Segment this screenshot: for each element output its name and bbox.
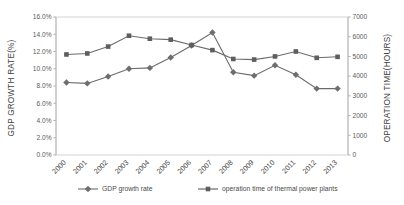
data-point-square (273, 54, 278, 59)
data-point-square (148, 36, 153, 41)
data-point-square (85, 51, 90, 56)
data-point-square (314, 56, 319, 61)
left-axis-tick-label: 14.0% (33, 31, 52, 38)
data-point-square (106, 44, 111, 49)
right-axis-tick-label: 5000 (353, 53, 368, 60)
right-axis-title: OPERATION TIME(HOURS) (383, 34, 392, 143)
left-axis-tick-label: 4.0% (36, 117, 51, 124)
left-axis-title: GDP GROWTH RATE(%) (7, 39, 16, 136)
legend-item-label: GDP growth rate (102, 185, 153, 193)
legend-item-label: operation time of thermal power plants (222, 185, 338, 193)
left-axis-tick-label: 12.0% (33, 48, 52, 55)
data-point-square (168, 37, 173, 42)
data-point-square (127, 33, 132, 38)
right-axis-tick-label: 7000 (353, 13, 368, 20)
right-axis-tick-label: 4000 (353, 72, 368, 79)
data-point-square (210, 48, 215, 53)
data-point-square (231, 57, 236, 62)
data-point-square (294, 49, 299, 54)
data-point-square (252, 57, 257, 62)
right-axis-tick-label: 0 (353, 151, 357, 158)
right-axis-tick-label: 6000 (353, 33, 368, 40)
data-point-square (206, 187, 211, 192)
right-axis-tick-label: 2000 (353, 112, 368, 119)
left-axis-tick-label: 8.0% (36, 82, 51, 89)
left-axis-tick-label: 6.0% (36, 100, 51, 107)
data-point-square (189, 43, 194, 48)
data-point-square (64, 52, 69, 57)
left-axis-tick-label: 0.0% (36, 151, 51, 158)
dual-axis-line-chart: 0.0%2.0%4.0%6.0%8.0%10.0%12.0%14.0%16.0%… (0, 0, 404, 205)
left-axis-tick-label: 10.0% (33, 65, 52, 72)
left-axis-tick-label: 16.0% (33, 13, 52, 20)
left-axis-tick-label: 2.0% (36, 134, 51, 141)
right-axis-tick-label: 3000 (353, 92, 368, 99)
chart-container: 0.0%2.0%4.0%6.0%8.0%10.0%12.0%14.0%16.0%… (0, 0, 404, 205)
right-axis-tick-label: 1000 (353, 132, 368, 139)
data-point-square (335, 55, 340, 60)
